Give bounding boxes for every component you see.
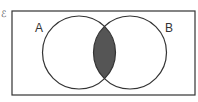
universal-set-symbol: ℰ: [1, 9, 7, 19]
venn-diagram: ℰ A B: [0, 0, 198, 102]
set-b-label: B: [165, 21, 173, 35]
set-a-label: A: [35, 21, 43, 35]
